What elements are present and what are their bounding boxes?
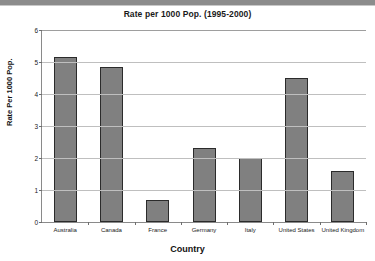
y-tick-label: 5: [34, 59, 38, 66]
bar-chart-figure: Rate per 1000 Pop. (1995-2000) Rate Per …: [0, 0, 375, 261]
x-tick-mark: [181, 222, 182, 225]
x-tick-mark: [366, 222, 367, 225]
gridline: [42, 190, 366, 191]
x-tick-mark: [273, 222, 274, 225]
gridline: [42, 30, 366, 31]
x-tick-mark: [320, 222, 321, 225]
y-tick-label: 6: [34, 27, 38, 34]
window-top-strip-edge: [0, 5, 375, 6]
chart-title: Rate per 1000 Pop. (1995-2000): [0, 9, 375, 19]
y-tick-label: 3: [34, 123, 38, 130]
x-axis-title: Country: [0, 244, 375, 254]
bar-france: [146, 200, 169, 222]
x-tick-label-united-states: United States: [279, 227, 315, 233]
gridline: [42, 126, 366, 127]
y-tick-label: 4: [34, 91, 38, 98]
x-tick-mark: [88, 222, 89, 225]
x-tick-label-united-kingdom: United Kingdom: [321, 227, 364, 233]
y-tick-label: 0: [34, 219, 38, 226]
y-tick-mark: [39, 62, 42, 63]
x-tick-label-france: France: [148, 227, 167, 233]
gridline: [42, 62, 366, 63]
x-tick-label-australia: Australia: [53, 227, 76, 233]
y-tick-mark: [39, 190, 42, 191]
bar-australia: [54, 57, 77, 222]
gridline: [42, 158, 366, 159]
gridline: [42, 94, 366, 95]
y-tick-mark: [39, 126, 42, 127]
bar-united-states: [285, 78, 308, 222]
x-tick-mark: [135, 222, 136, 225]
y-tick-mark: [39, 30, 42, 31]
x-tick-label-germany: Germany: [192, 227, 217, 233]
y-tick-mark: [39, 158, 42, 159]
y-axis-title: Rate Per 1000 Pop.: [5, 58, 14, 126]
y-tick-mark: [39, 94, 42, 95]
bar-united-kingdom: [331, 171, 354, 222]
x-tick-label-italy: Italy: [245, 227, 256, 233]
x-tick-label-canada: Canada: [101, 227, 122, 233]
y-tick-mark: [39, 222, 42, 223]
bar-germany: [193, 148, 216, 222]
plot-area: 0123456AustraliaCanadaFranceGermanyItaly…: [41, 30, 366, 223]
y-tick-label: 1: [34, 187, 38, 194]
bar-canada: [100, 67, 123, 222]
y-tick-label: 2: [34, 155, 38, 162]
x-tick-mark: [227, 222, 228, 225]
